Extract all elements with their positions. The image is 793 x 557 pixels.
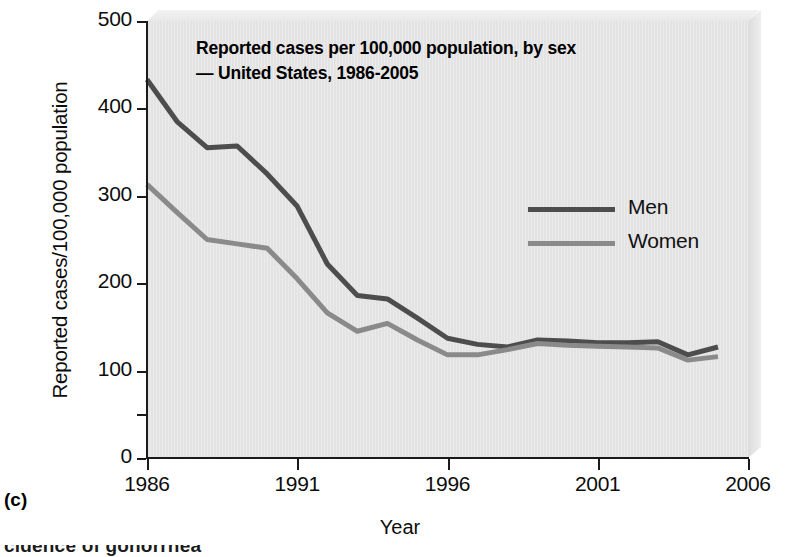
x-tick-label-1986: 1986 <box>107 472 187 496</box>
plot-top-bevel <box>147 10 759 21</box>
x-tick-1991 <box>297 459 299 470</box>
x-tick-label-2001: 2001 <box>558 472 638 496</box>
data-lines <box>147 21 748 458</box>
x-tick-label-1996: 1996 <box>408 472 488 496</box>
x-tick-label-1991: 1991 <box>257 472 337 496</box>
y-tick-label-0: 0 <box>72 444 132 468</box>
y-axis-line <box>146 21 148 459</box>
y-tick-label-400: 400 <box>72 94 132 118</box>
cut-off-caption: cidence of gonorrhea <box>4 545 474 557</box>
y-tick-0 <box>137 458 146 460</box>
y-tick-200 <box>137 283 146 285</box>
y-tick-500 <box>137 21 146 23</box>
x-tick-2006 <box>748 459 750 470</box>
x-tick-2001 <box>598 459 600 470</box>
x-tick-label-2006: 2006 <box>708 472 788 496</box>
y-tick-400 <box>137 108 146 110</box>
plot-side-bevel <box>748 10 761 458</box>
x-tick-1996 <box>448 459 450 470</box>
x-axis-title: Year <box>300 516 500 539</box>
y-tick-label-300: 300 <box>72 182 132 206</box>
y-tick-label-500: 500 <box>72 7 132 31</box>
cut-off-caption-text: cidence of gonorrhea <box>4 545 474 557</box>
y-minor-tick-50 <box>137 414 146 416</box>
y-tick-300 <box>137 196 146 198</box>
series-line-women <box>147 184 718 360</box>
y-tick-label-200: 200 <box>72 269 132 293</box>
x-tick-1986 <box>147 459 149 470</box>
y-axis-title: Reported cases/100,000 population <box>48 30 72 450</box>
plot-area-3d: Reported cases per 100,000 population, b… <box>147 21 748 458</box>
panel-letter: (c) <box>4 489 27 511</box>
y-tick-label-100: 100 <box>72 357 132 381</box>
y-tick-100 <box>137 371 146 373</box>
series-line-men <box>147 80 718 355</box>
